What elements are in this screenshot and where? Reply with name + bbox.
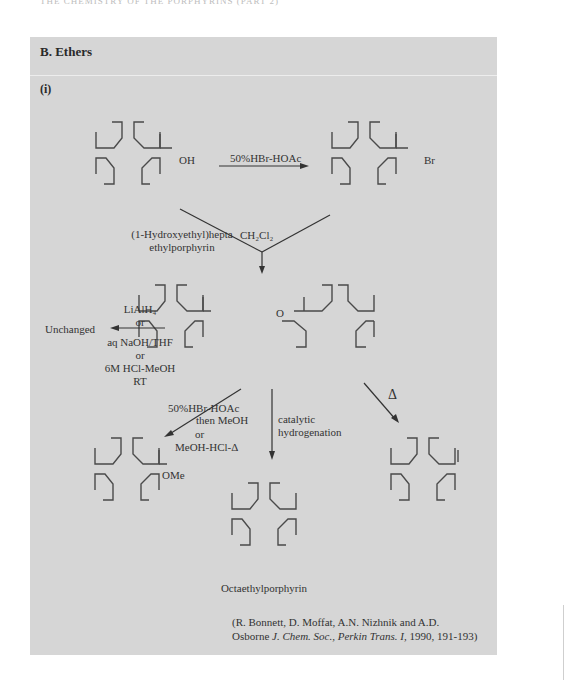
meth-cond-2: or bbox=[195, 428, 204, 441]
reagent-top: 50%HBr-HOAc bbox=[230, 152, 301, 165]
left-cond-1: or bbox=[95, 316, 185, 329]
citation-line1: (R. Bonnett, D. Moffat, A.N. Nizhnik and… bbox=[232, 615, 477, 629]
start-name-line2: ethylporphyrin bbox=[82, 241, 282, 254]
hydrog-cond-1: hydrogenation bbox=[278, 426, 342, 439]
porphyrin-hydroxyethyl bbox=[96, 122, 172, 184]
meth-cond-3: MeOH-HCl-Δ bbox=[175, 441, 238, 454]
left-cond-0: LiAlH₄ bbox=[95, 303, 185, 316]
citation: (R. Bonnett, D. Moffat, A.N. Nizhnik and… bbox=[232, 615, 477, 643]
porphyrin-bromoethyl bbox=[332, 122, 408, 184]
heat-label: Δ bbox=[388, 388, 397, 401]
arrow-hydrogenation bbox=[269, 389, 275, 460]
left-cond-2: aq NaOH/THF bbox=[95, 336, 185, 349]
citation-line2: Osborne J. Chem. Soc., Perkin Trans. I, … bbox=[232, 629, 477, 643]
left-cond-3: or bbox=[95, 349, 185, 362]
journal-name: J. Chem. Soc., Perkin Trans. I, bbox=[272, 630, 407, 642]
label-o: O bbox=[276, 307, 284, 320]
meth-cond-1: then MeOH bbox=[196, 414, 248, 427]
reaction-scheme bbox=[0, 0, 568, 680]
label-ome: OMe bbox=[162, 469, 185, 482]
hydrog-cond-0: catalytic bbox=[278, 413, 315, 426]
left-result: Unchanged bbox=[45, 323, 95, 336]
porphyrin-methoxyethyl bbox=[95, 438, 167, 500]
porphyrin-vinyl bbox=[391, 438, 458, 500]
porphyrin-octaethyl bbox=[232, 483, 296, 545]
product-name: Octaethylporphyrin bbox=[214, 582, 314, 595]
label-oh: OH bbox=[179, 154, 195, 167]
left-cond-4: 6M HCl-MeOH bbox=[95, 362, 185, 375]
label-br: Br bbox=[424, 154, 435, 167]
solvent-label: CH₂Cl₂ bbox=[240, 229, 273, 242]
left-cond-5: RT bbox=[95, 375, 185, 388]
